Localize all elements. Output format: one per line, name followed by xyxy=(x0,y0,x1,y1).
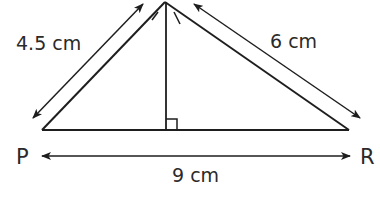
base-length-label: 9 cm xyxy=(172,166,219,185)
triangle-diagram: 4.5 cm 6 cm 9 cm P R xyxy=(0,0,380,212)
right-side xyxy=(165,2,349,130)
left-side-length-label: 4.5 cm xyxy=(16,34,81,53)
left-side-dimension-arrow xyxy=(33,4,143,118)
triangle-outline xyxy=(42,2,349,130)
vertex-label-P: P xyxy=(16,147,29,168)
right-side-dimension-arrow xyxy=(194,4,360,118)
vertex-label-R: R xyxy=(360,147,375,168)
right-side-length-label: 6 cm xyxy=(270,32,317,51)
right-angle-marker xyxy=(166,119,177,130)
left-side xyxy=(42,2,165,130)
apex-tick-right xyxy=(174,12,180,24)
